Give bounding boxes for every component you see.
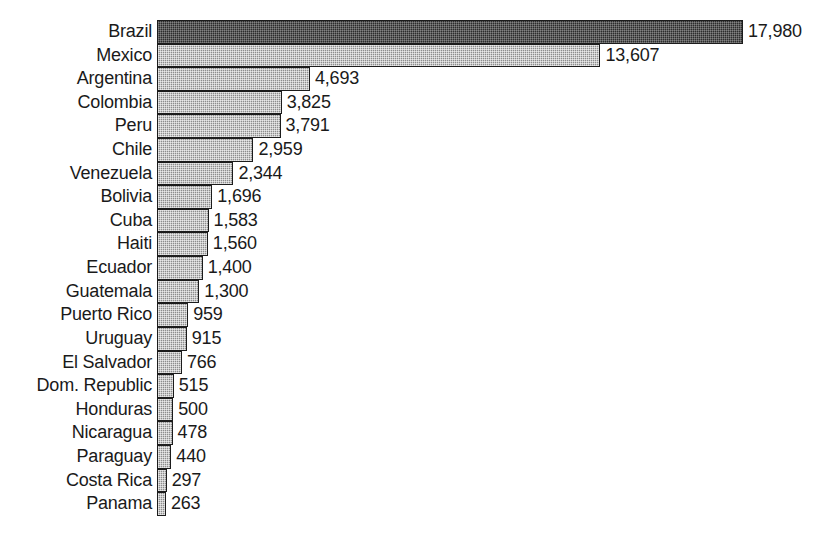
bar-chart: Brazil17,980Mexico13,607Argentina4,693Co… [0, 0, 825, 533]
value-label: 500 [178, 398, 207, 422]
bar-and-value: 500 [157, 398, 208, 422]
value-label: 263 [171, 492, 200, 516]
bar-and-value: 297 [157, 469, 201, 493]
value-label: 959 [193, 303, 222, 327]
value-label: 1,696 [217, 185, 261, 209]
bar-and-value: 1,400 [157, 256, 252, 280]
bar [157, 374, 174, 398]
bar [157, 421, 173, 445]
bar [157, 44, 600, 68]
bar-and-value: 2,344 [157, 162, 282, 186]
bar-and-value: 3,825 [157, 91, 331, 115]
value-label: 515 [179, 374, 208, 398]
value-label: 440 [176, 445, 205, 469]
category-label: Ecuador [0, 256, 152, 280]
value-label: 3,825 [287, 91, 331, 115]
category-label: Bolivia [0, 185, 152, 209]
bar-row: Colombia3,825 [0, 91, 825, 115]
category-label: Venezuela [0, 162, 152, 186]
bar-row: Haiti1,560 [0, 232, 825, 256]
bar-and-value: 1,560 [157, 232, 257, 256]
bar-row: Peru3,791 [0, 114, 825, 138]
bar [157, 445, 171, 469]
value-label: 2,959 [258, 138, 302, 162]
category-label: Honduras [0, 398, 152, 422]
bar-and-value: 13,607 [157, 44, 659, 68]
bar-and-value: 17,980 [157, 20, 802, 44]
bar-row: Chile2,959 [0, 138, 825, 162]
category-label: Guatemala [0, 280, 152, 304]
bar-and-value: 1,583 [157, 209, 258, 233]
value-label: 1,560 [213, 232, 257, 256]
bar-row: Venezuela2,344 [0, 162, 825, 186]
bar [157, 469, 167, 493]
category-label: Uruguay [0, 327, 152, 351]
bar-and-value: 440 [157, 445, 206, 469]
bar [157, 351, 182, 375]
bar [157, 303, 188, 327]
bar-row: Dom. Republic515 [0, 374, 825, 398]
category-label: Brazil [0, 20, 152, 44]
bar-row: Guatemala1,300 [0, 280, 825, 304]
value-label: 3,791 [286, 114, 330, 138]
bar-and-value: 4,693 [157, 67, 359, 91]
category-label: Colombia [0, 91, 152, 115]
bar-and-value: 263 [157, 492, 200, 516]
bar-and-value: 2,959 [157, 138, 302, 162]
bar-row: Brazil17,980 [0, 20, 825, 44]
bar [157, 67, 310, 91]
category-label: Costa Rica [0, 469, 152, 493]
bar-and-value: 515 [157, 374, 208, 398]
value-label: 4,693 [315, 67, 359, 91]
value-label: 1,300 [204, 280, 248, 304]
bar [157, 209, 209, 233]
bar [157, 256, 203, 280]
bar [157, 20, 743, 44]
bar-and-value: 959 [157, 303, 223, 327]
category-label: Haiti [0, 232, 152, 256]
category-label: Dom. Republic [0, 374, 152, 398]
bar-row: Panama263 [0, 492, 825, 516]
bar-row: Nicaragua478 [0, 421, 825, 445]
bar-and-value: 915 [157, 327, 221, 351]
bar [157, 492, 166, 516]
bar-row: Uruguay915 [0, 327, 825, 351]
bar-and-value: 1,696 [157, 185, 261, 209]
value-label: 766 [187, 351, 216, 375]
category-label: Peru [0, 114, 152, 138]
bar-row: Paraguay440 [0, 445, 825, 469]
value-label: 1,400 [208, 256, 252, 280]
value-label: 2,344 [238, 162, 282, 186]
value-label: 13,607 [605, 44, 659, 68]
bar-and-value: 1,300 [157, 280, 248, 304]
category-label: Cuba [0, 209, 152, 233]
bar [157, 280, 199, 304]
category-label: Paraguay [0, 445, 152, 469]
bar-and-value: 766 [157, 351, 216, 375]
category-label: Panama [0, 492, 152, 516]
bar-row: Bolivia1,696 [0, 185, 825, 209]
bar [157, 138, 253, 162]
bar [157, 162, 233, 186]
value-label: 478 [178, 421, 207, 445]
bar-row: Mexico13,607 [0, 44, 825, 68]
bar [157, 91, 282, 115]
bar-and-value: 3,791 [157, 114, 330, 138]
chart-plot-area: Brazil17,980Mexico13,607Argentina4,693Co… [0, 20, 825, 516]
bar-row: Argentina4,693 [0, 67, 825, 91]
category-label: Chile [0, 138, 152, 162]
bar [157, 185, 212, 209]
bar [157, 398, 173, 422]
bar [157, 327, 187, 351]
bar-row: Costa Rica297 [0, 469, 825, 493]
category-label: Mexico [0, 44, 152, 68]
value-label: 297 [172, 469, 201, 493]
bar [157, 232, 208, 256]
category-label: Argentina [0, 67, 152, 91]
category-label: Puerto Rico [0, 303, 152, 327]
value-label: 17,980 [748, 20, 802, 44]
value-label: 1,583 [214, 209, 258, 233]
category-label: El Salvador [0, 351, 152, 375]
bar-and-value: 478 [157, 421, 207, 445]
bar-row: Ecuador1,400 [0, 256, 825, 280]
